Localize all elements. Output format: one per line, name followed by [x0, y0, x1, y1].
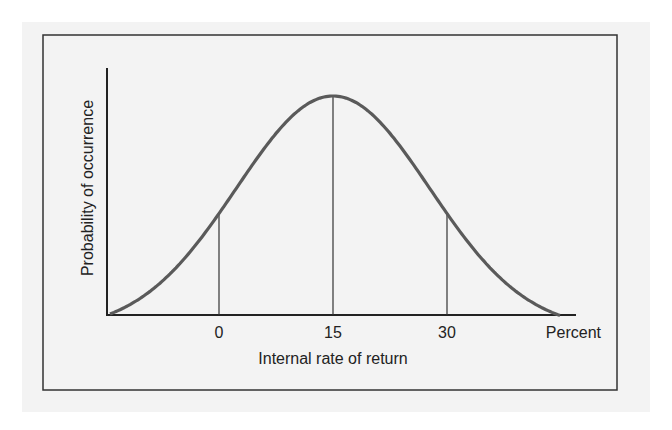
x-unit-label: Percent — [546, 324, 602, 341]
x-tick-0: 0 — [215, 324, 224, 341]
x-tick-15: 15 — [324, 324, 342, 341]
x-tick-30: 30 — [438, 324, 456, 341]
x-axis-label: Internal rate of return — [258, 350, 407, 367]
y-axis-label: Probability of occurrence — [79, 100, 96, 276]
chart: 0 15 30 Percent Internal rate of return … — [0, 0, 672, 430]
distribution-curve — [110, 96, 560, 316]
